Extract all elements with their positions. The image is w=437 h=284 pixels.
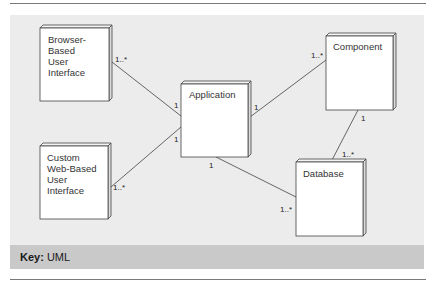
node-label: User xyxy=(47,174,67,185)
mult-component-database-end: 1 xyxy=(361,114,366,123)
node-label: Browser- xyxy=(48,34,86,45)
mult-database-app-end: 1..* xyxy=(280,205,292,214)
assoc-application-database xyxy=(216,157,296,197)
key-bar: Key: UML xyxy=(10,245,424,269)
node-label: Custom xyxy=(47,152,80,163)
node-label: Application xyxy=(189,89,235,100)
node-browser-ui[interactable]: Browser- Based User Interface xyxy=(40,25,112,101)
assoc-application-component xyxy=(250,60,326,117)
node-application[interactable]: Application xyxy=(181,81,251,157)
node-label: Component xyxy=(333,41,382,52)
node-database[interactable]: Database xyxy=(296,159,366,236)
mult-application-browser-end: 1 xyxy=(174,101,179,110)
node-custom-web-ui[interactable]: Custom Web-Based User Interface xyxy=(40,143,111,219)
node-label: Web-Based xyxy=(47,163,96,174)
mult-custom-end: 1..* xyxy=(113,183,125,192)
node-label: Based xyxy=(48,45,75,56)
assoc-custom-application xyxy=(111,127,181,187)
key-label: Key: xyxy=(20,251,44,263)
key-legend: Key: UML xyxy=(20,245,70,269)
node-label: Interface xyxy=(48,67,85,78)
node-label: Interface xyxy=(47,185,84,196)
bottom-rule xyxy=(10,279,426,280)
mult-browser-end: 1..* xyxy=(115,55,127,64)
node-label: Database xyxy=(303,168,344,179)
mult-component-end: 1..* xyxy=(311,51,323,60)
uml-diagram: Browser- Based User Interface Custom Web… xyxy=(0,0,437,284)
mult-application-custom-end: 1 xyxy=(174,135,179,144)
mult-database-component-end: 1..* xyxy=(342,150,354,159)
node-component[interactable]: Component xyxy=(326,33,396,110)
assoc-browser-application xyxy=(112,62,181,116)
node-label: User xyxy=(48,56,68,67)
mult-application-database-end: 1 xyxy=(209,161,214,170)
mult-application-component-end: 1 xyxy=(254,103,259,112)
key-value: UML xyxy=(47,251,70,263)
